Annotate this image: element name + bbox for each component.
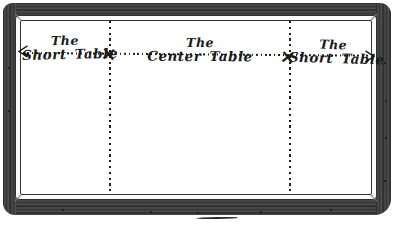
table-plan-figure: × × The Short Table The Center Table The… — [0, 0, 395, 225]
section-label-center-table: The Center Table — [138, 36, 262, 64]
nail-dot — [8, 110, 10, 112]
section-label-short-table-right: The Short Table — [289, 37, 378, 66]
nail-dot — [385, 137, 387, 139]
nail-dot — [260, 211, 262, 213]
nail-dot — [197, 212, 199, 214]
nail-dot — [384, 180, 386, 182]
label-line: Short Table — [22, 46, 108, 62]
label-line: Center Table — [138, 49, 262, 64]
nail-dot — [8, 67, 10, 69]
label-line: Short Table — [289, 50, 377, 66]
nail-dot — [385, 100, 387, 102]
nail-dot — [150, 211, 152, 213]
nail-dot — [330, 209, 332, 211]
ground-shadow-mark — [196, 217, 238, 220]
section-label-short-table-left: The Short Table — [22, 33, 109, 62]
nail-dot — [62, 209, 64, 211]
